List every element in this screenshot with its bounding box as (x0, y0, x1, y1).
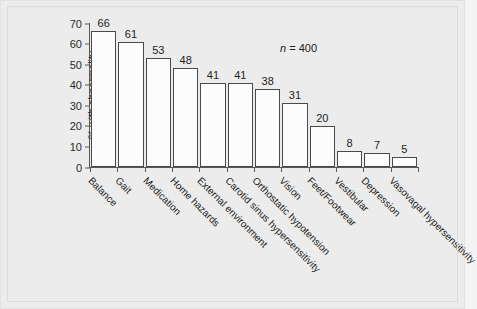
bar-value-label: 41 (199, 69, 226, 81)
bar-slot: 8 (336, 23, 363, 167)
bar-value-label: 41 (227, 69, 254, 81)
y-axis-tick-label: 50 (70, 58, 82, 70)
bar-value-label: 53 (145, 44, 172, 56)
bar-slot: 41 (227, 23, 254, 167)
bar[interactable] (282, 103, 307, 167)
x-axis-tick-mark (172, 167, 173, 172)
x-axis-tick-mark (254, 167, 255, 172)
bar[interactable] (228, 83, 253, 167)
y-axis-tick-label: 20 (70, 120, 82, 132)
bar[interactable] (146, 58, 171, 167)
y-axis-tick-label: 40 (70, 79, 82, 91)
bar-slot: 53 (145, 23, 172, 167)
x-axis-tick-mark (117, 167, 118, 172)
bar-slot: 7 (363, 23, 390, 167)
y-axis-tick-label: 10 (70, 140, 82, 152)
bar[interactable] (310, 126, 335, 167)
bar[interactable] (91, 31, 116, 167)
bar-slot: 48 (172, 23, 199, 167)
bar-value-label: 8 (336, 137, 363, 149)
x-axis-tick-mark (227, 167, 228, 172)
bar[interactable] (364, 153, 389, 167)
bar[interactable] (392, 157, 417, 167)
bar-slot: 38 (254, 23, 281, 167)
bar-value-label: 38 (254, 75, 281, 87)
x-axis-tick-mark (336, 167, 337, 172)
sample-size-annotation: n = 400 (280, 42, 317, 54)
y-axis-tick-label: 30 (70, 99, 82, 111)
bar-value-label: 31 (281, 89, 308, 101)
x-axis-tick-mark (145, 167, 146, 172)
plot-area: % with abnormality 010203040506070 66615… (90, 23, 418, 167)
y-axis-tick-label: 0 (76, 161, 82, 173)
bar-value-label: 48 (172, 54, 199, 66)
bar[interactable] (337, 151, 362, 167)
bar-slot: 61 (117, 23, 144, 167)
x-axis-tick-mark (281, 167, 282, 172)
bar-slot: 41 (199, 23, 226, 167)
x-axis-tick-mark (199, 167, 200, 172)
bar[interactable] (255, 89, 280, 167)
bar-value-label: 66 (90, 17, 117, 29)
bar-slot: 5 (391, 23, 418, 167)
x-axis-tick-mark (90, 167, 91, 172)
bar-value-label: 7 (363, 139, 390, 151)
x-axis-tick-mark (418, 167, 419, 172)
bar-value-label: 20 (309, 112, 336, 124)
bar[interactable] (173, 68, 198, 167)
sample-size-value: = 400 (286, 42, 317, 54)
x-axis-tick-mark (309, 167, 310, 172)
y-axis-tick-label: 60 (70, 38, 82, 50)
x-axis-tick-mark (391, 167, 392, 172)
y-axis-tick-label: 70 (70, 17, 82, 29)
bar[interactable] (118, 42, 143, 167)
x-axis-tick-label: Gait (114, 175, 135, 196)
bar[interactable] (200, 83, 225, 167)
bar-value-label: 61 (117, 28, 144, 40)
bar-value-label: 5 (391, 143, 418, 155)
x-axis-tick-mark (363, 167, 364, 172)
x-axis-tick-label: Vasovagal hypersensitivity (387, 175, 477, 266)
bar-slot: 66 (90, 23, 117, 167)
